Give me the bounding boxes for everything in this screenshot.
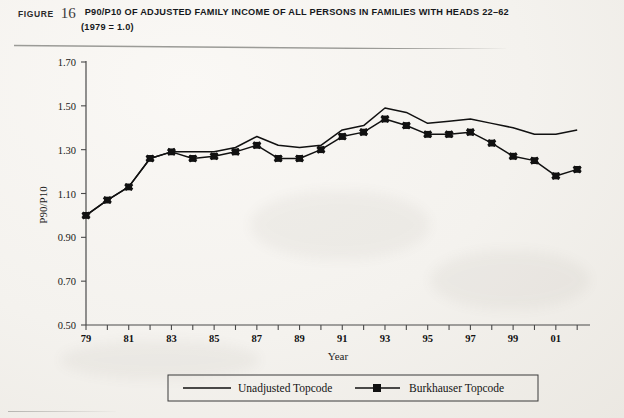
- chart-canvas: 0.500.700.901.101.301.501.70 79818385878…: [0, 0, 624, 418]
- legend-item-burkhauser: Burkhauser Topcode: [355, 382, 504, 395]
- x-tick-label: 93: [380, 333, 391, 344]
- y-tick-label: 0.50: [58, 320, 76, 331]
- x-tick-label: 95: [422, 333, 433, 344]
- y-tick-label: 1.10: [58, 189, 76, 200]
- legend-item-unadjusted: Unadjusted Topcode: [183, 382, 332, 395]
- y-tick-label: 0.90: [58, 232, 76, 243]
- legend-marker-square: [373, 384, 381, 392]
- x-tick-label: 83: [166, 333, 177, 344]
- y-tick-label: 1.30: [58, 145, 76, 156]
- y-tick-labels: 0.500.700.901.101.301.501.70: [58, 57, 76, 331]
- x-tick-label: 81: [123, 333, 134, 344]
- x-axis-label: Year: [328, 350, 349, 362]
- y-tick-label: 0.70: [58, 276, 76, 287]
- x-tick-label: 91: [337, 333, 348, 344]
- data-series-layer: [81, 108, 581, 219]
- legend-label-burkhauser: Burkhauser Topcode: [409, 382, 504, 395]
- legend-label-unadjusted: Unadjusted Topcode: [238, 382, 332, 395]
- series-line-unadjusted-topcode: [86, 108, 577, 215]
- x-tick-labels: 798183858789919395979901: [81, 333, 561, 344]
- y-tick-label: 1.50: [58, 101, 76, 112]
- x-tick-label: 85: [209, 333, 220, 344]
- chart-axes: [81, 61, 590, 330]
- x-tick-label: 79: [81, 333, 92, 344]
- chart-legend: Unadjusted Topcode Burkhauser Topcode: [168, 375, 538, 401]
- x-tick-label: 89: [294, 333, 305, 344]
- series-line-burkhauser-topcode: [86, 119, 577, 215]
- x-tick-label: 01: [551, 333, 562, 344]
- x-tick-label: 99: [508, 333, 519, 344]
- figure-page: FIGURE 16 P90/P10 OF ADJUSTED FAMILY INC…: [0, 0, 624, 418]
- x-tick-label: 87: [252, 333, 263, 344]
- y-axis-label: P90/P10: [37, 186, 49, 224]
- x-tick-label: 97: [465, 333, 476, 344]
- y-tick-label: 1.70: [58, 57, 76, 68]
